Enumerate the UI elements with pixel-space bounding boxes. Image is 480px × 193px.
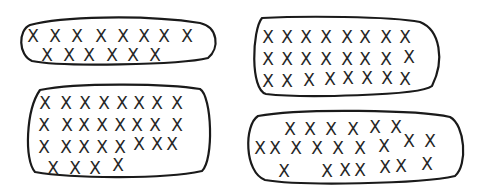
x-mark: X xyxy=(354,160,366,180)
group-bottom-right: XXXXXXXXXXXXXXXXXXXXXX xyxy=(248,111,463,184)
x-mark: X xyxy=(281,49,293,69)
x-mark: X xyxy=(262,71,274,91)
x-mark: X xyxy=(395,156,407,176)
x-mark: X xyxy=(60,93,72,113)
x-mark: X xyxy=(320,49,332,69)
x-mark: X xyxy=(262,27,274,47)
x-mark: X xyxy=(379,157,391,177)
hand-drawn-groups-diagram: XXXXXXXXXXXXXXXXXXXXXXXXXXXXXXXXXXXXXXXX… xyxy=(0,0,480,193)
x-mark: X xyxy=(304,119,316,139)
x-mark: X xyxy=(381,68,393,88)
x-mark: X xyxy=(41,45,53,65)
x-mark: X xyxy=(181,26,193,46)
x-mark: X xyxy=(116,93,128,113)
x-mark: X xyxy=(47,158,59,178)
x-mark: X xyxy=(112,155,124,175)
x-mark: X xyxy=(311,138,323,158)
x-mark: X xyxy=(114,137,126,157)
x-mark: X xyxy=(27,26,39,46)
x-mark: X xyxy=(290,138,302,158)
x-mark: X xyxy=(117,26,129,46)
x-mark: X xyxy=(89,158,101,178)
x-mark: X xyxy=(347,119,359,139)
x-mark: X xyxy=(332,138,344,158)
x-mark: X xyxy=(71,26,83,46)
x-mark: X xyxy=(324,69,336,89)
x-mark: X xyxy=(303,70,315,90)
group-top-right: XXXXXXXXXXXXXXXXXXXXXXXX xyxy=(254,17,439,96)
x-mark: X xyxy=(361,68,373,88)
x-mark: X xyxy=(369,117,381,137)
x-mark: X xyxy=(83,45,95,65)
x-mark: X xyxy=(281,27,293,47)
x-mark: X xyxy=(151,93,163,113)
x-mark: X xyxy=(339,160,351,180)
x-mark: X xyxy=(300,49,312,69)
x-mark: X xyxy=(341,27,353,47)
x-mark: X xyxy=(138,26,150,46)
x-mark: X xyxy=(39,93,51,113)
x-mark: X xyxy=(96,137,108,157)
x-mark: X xyxy=(63,45,75,65)
group-bottom-left: XXXXXXXXXXXXXXXXXXXXXXXXXXXX xyxy=(28,85,210,178)
x-mark: X xyxy=(403,131,415,151)
x-mark: X xyxy=(69,158,81,178)
x-mark: X xyxy=(95,26,107,46)
x-mark: X xyxy=(98,93,110,113)
x-mark: X xyxy=(359,27,371,47)
x-mark: X xyxy=(106,45,118,65)
x-mark: X xyxy=(96,115,108,135)
x-mark: X xyxy=(399,69,411,89)
x-mark: X xyxy=(133,93,145,113)
group-top-left: XXXXXXXXXXXXXX xyxy=(21,17,215,65)
x-mark: X xyxy=(114,115,126,135)
x-mark: X xyxy=(149,45,161,65)
x-mark: X xyxy=(269,138,281,158)
x-mark: X xyxy=(38,115,50,135)
x-mark: X xyxy=(38,137,50,157)
x-mark: X xyxy=(79,93,91,113)
x-mark: X xyxy=(131,115,143,135)
x-mark: X xyxy=(262,49,274,69)
x-mark: X xyxy=(60,137,72,157)
x-mark: X xyxy=(171,115,183,135)
x-mark: X xyxy=(151,134,163,154)
x-mark: X xyxy=(403,47,415,67)
x-mark: X xyxy=(166,134,178,154)
x-mark: X xyxy=(321,161,333,181)
x-mark: X xyxy=(342,68,354,88)
x-mark: X xyxy=(325,119,337,139)
x-mark: X xyxy=(424,131,436,151)
x-mark: X xyxy=(127,45,139,65)
x-mark: X xyxy=(421,154,433,174)
x-mark: X xyxy=(278,161,290,181)
x-mark: X xyxy=(320,27,332,47)
x-mark: X xyxy=(380,49,392,69)
x-mark: X xyxy=(281,71,293,91)
x-mark: X xyxy=(378,136,390,156)
x-mark: X xyxy=(254,138,266,158)
x-mark: X xyxy=(133,134,145,154)
x-mark: X xyxy=(399,27,411,47)
diagram-canvas: XXXXXXXXXXXXXXXXXXXXXXXXXXXXXXXXXXXXXXXX… xyxy=(0,0,480,193)
x-mark: X xyxy=(61,115,73,135)
x-mark: X xyxy=(158,26,170,46)
x-mark: X xyxy=(390,117,402,137)
x-mark: X xyxy=(149,115,161,135)
x-mark: X xyxy=(78,115,90,135)
x-mark: X xyxy=(171,93,183,113)
x-mark: X xyxy=(284,119,296,139)
x-mark: X xyxy=(359,49,371,69)
x-mark: X xyxy=(78,137,90,157)
x-mark: X xyxy=(49,26,61,46)
x-mark: X xyxy=(300,27,312,47)
x-mark: X xyxy=(354,138,366,158)
x-mark: X xyxy=(380,27,392,47)
x-mark: X xyxy=(341,49,353,69)
